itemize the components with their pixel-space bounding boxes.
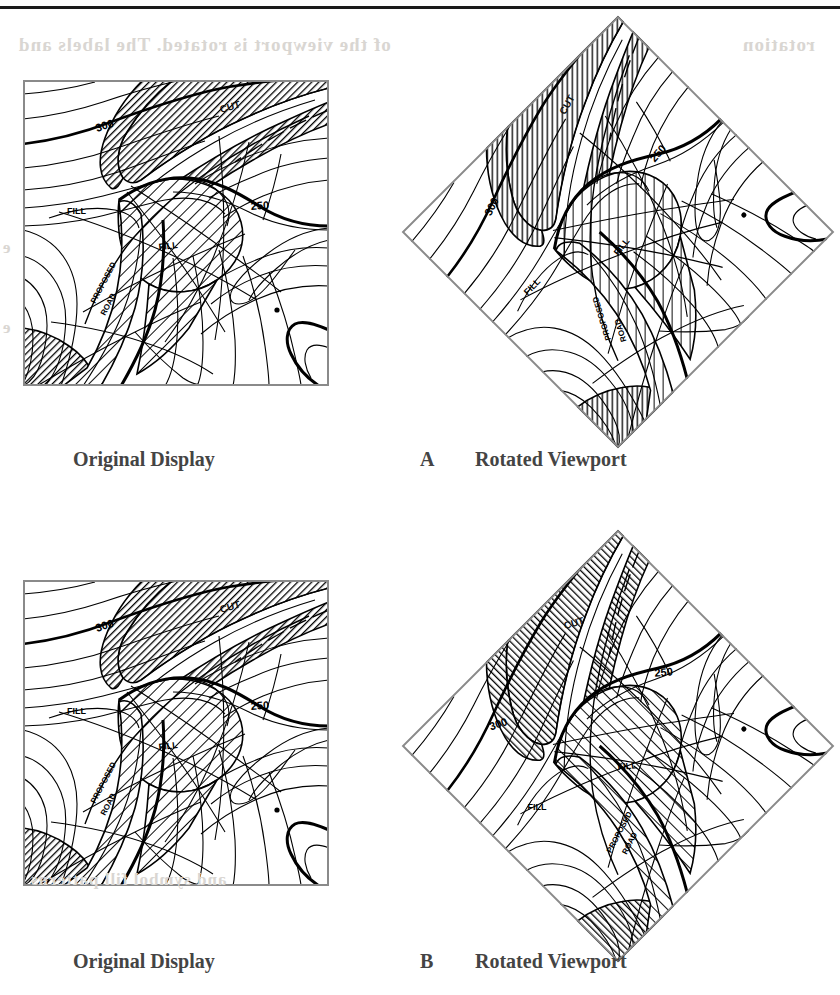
caption-original-display-b: Original Display <box>73 950 215 973</box>
area-label-fill: FILL <box>617 760 637 772</box>
original-display-b[interactable]: 300 250 CUT FILL FILL PROPOSED ROAD <box>23 580 329 890</box>
callout-label-fill: FILL <box>67 706 86 716</box>
panel-a: 300 250 CUT FILL FILL PROPOSED ROAD <box>0 0 840 500</box>
caption-rotated-viewport-b: Rotated Viewport <box>475 950 627 973</box>
rotated-viewport-b[interactable]: 300 250 CUT FILL FILL PROPOSED ROAD <box>398 526 838 966</box>
panel-letter-a: A <box>420 448 434 471</box>
caption-original-display-a: Original Display <box>73 448 215 471</box>
contour-label-250: 250 <box>250 699 269 712</box>
caption-rotated-viewport-a: Rotated Viewport <box>475 448 627 471</box>
contour-label-250: 250 <box>654 665 673 678</box>
page-rule <box>0 6 840 9</box>
area-label-fill: FILL <box>158 240 178 252</box>
callout-label-fill: FILL <box>527 802 546 812</box>
rotated-viewport-a[interactable]: 300 250 CUT FILL FILL PROPOSED ROAD <box>398 12 838 452</box>
area-label-fill: FILL <box>158 740 178 752</box>
callout-label-fill: FILL <box>67 206 86 216</box>
panel-b: 300 250 CUT FILL FILL PROPOSED ROAD <box>0 498 840 995</box>
contour-label-250: 250 <box>250 199 269 212</box>
panel-letter-b: B <box>420 950 433 973</box>
original-display-a[interactable]: 300 250 CUT FILL FILL PROPOSED ROAD <box>23 80 329 390</box>
